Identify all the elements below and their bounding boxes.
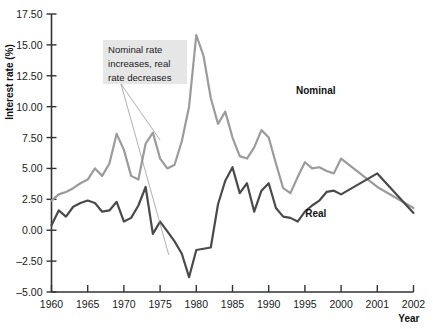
x-axis-tick-label: 1975 bbox=[148, 298, 172, 310]
x-axis-tick-label: 1965 bbox=[76, 298, 100, 310]
y-axis-tick-label: 12.50 bbox=[16, 70, 42, 82]
series-line-real bbox=[52, 167, 414, 277]
y-axis-tick-label: 0.00 bbox=[22, 224, 43, 236]
y-axis-title: Interest rate (%) bbox=[4, 44, 15, 120]
annotation-text-line: Nominal rate bbox=[108, 44, 162, 55]
x-axis-tick-label: 1980 bbox=[185, 298, 209, 310]
axes-group: –5.00–2.500.002.505.007.5010.0012.5015.0… bbox=[4, 8, 425, 324]
x-axis-title: Year bbox=[398, 313, 419, 324]
annotation-leader-line bbox=[121, 84, 160, 140]
x-axis-tick-label: 2002 bbox=[402, 298, 426, 310]
y-axis-tick-label: –2.50 bbox=[16, 255, 42, 267]
x-axis-tick-label: 2001 bbox=[366, 298, 390, 310]
series-label-real: Real bbox=[305, 208, 326, 219]
annotation-text-line: rate decreases bbox=[108, 72, 172, 83]
y-axis-tick-label: 15.00 bbox=[16, 39, 42, 51]
x-axis-tick-label: 1985 bbox=[221, 298, 245, 310]
y-axis-tick-label: –5.00 bbox=[16, 286, 42, 298]
series-label-nominal: Nominal bbox=[296, 85, 336, 96]
x-axis-tick-label: 1990 bbox=[257, 298, 281, 310]
x-axis-tick-label: 1995 bbox=[293, 298, 317, 310]
chart-container: –5.00–2.500.002.505.007.5010.0012.5015.0… bbox=[0, 0, 433, 329]
y-axis-tick-label: 10.00 bbox=[16, 101, 42, 113]
y-axis-tick-label: 7.50 bbox=[22, 132, 43, 144]
x-axis-tick-label: 2000 bbox=[329, 298, 353, 310]
annotation-text-line: increases, real bbox=[108, 58, 170, 69]
x-axis-tick-label: 1970 bbox=[112, 298, 136, 310]
y-axis-tick-label: 2.50 bbox=[22, 193, 43, 205]
y-axis-tick-label: 17.50 bbox=[16, 8, 42, 20]
y-axis-tick-label: 5.00 bbox=[22, 162, 43, 174]
x-axis-tick-label: 1960 bbox=[40, 298, 64, 310]
annotation-leader-line bbox=[121, 84, 169, 255]
interest-rate-line-chart: –5.00–2.500.002.505.007.5010.0012.5015.0… bbox=[0, 0, 433, 329]
